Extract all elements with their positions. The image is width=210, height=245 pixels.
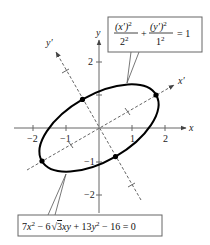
y-tick-label: −1 [84,156,95,167]
y-axis: 2 −1 −2 y [84,27,102,213]
y-tick-label: 2 [88,56,93,67]
point-covertex-top [80,97,85,102]
x-tick-label: 2 [163,133,168,144]
general-form-equation: 7x2 − 6√3xy + 13y2 − 16 = 0 [22,220,136,232]
equals-one: = 1 [177,28,190,39]
x-prime-axis-label: x′ [177,75,185,86]
point-vertex-left [39,158,44,163]
rotated-ellipse-diagram: −2 −1 1 2 x 2 −1 −2 y x′ y′ [0,0,210,245]
bottom-callout-pointer [48,174,66,215]
x-prime-tick-1 [125,108,130,115]
general-form-equation-box: 7x2 − 6√3xy + 13y2 − 16 = 0 [18,215,162,236]
x-axis-label: x [188,122,194,133]
standard-form-equation-box: (x′)2 22 + (y′)2 12 = 1 [108,17,202,52]
denominator-2-exponent: 2 [161,35,165,43]
numerator-2: (y′) [150,21,164,33]
top-callout-pointer [127,52,139,83]
y-tick-label: −2 [84,189,95,200]
numerator-1-exponent: 2 [128,20,132,28]
denominator-1-exponent: 2 [125,35,129,43]
y-prime-axis-label: y′ [45,37,53,48]
numerator-1: (x′) [115,21,129,33]
plus-sign: + [141,28,147,39]
point-vertex-right [153,92,158,97]
point-covertex-bottom [113,154,118,159]
y-prime-tick-neg2 [128,183,135,187]
numerator-2-exponent: 2 [163,20,167,28]
y-prime-axis: y′ [45,37,141,200]
y-axis-label: y [95,27,101,38]
x-tick-label: −2 [27,133,38,144]
